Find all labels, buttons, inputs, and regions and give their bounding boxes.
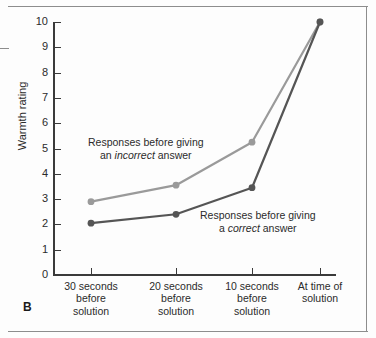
annotation-incorrect-line1: Responses before giving xyxy=(88,136,204,148)
series-0-point-2 xyxy=(249,139,256,146)
annotation-correct-line1: Responses before giving xyxy=(200,209,316,221)
annotation-incorrect-emphasis: incorrect xyxy=(115,149,155,161)
series-1-point-1 xyxy=(173,211,180,218)
annotation-correct-series: Responses before giving a correct answer xyxy=(200,209,316,235)
annotation-incorrect-series: Responses before giving an incorrect ans… xyxy=(88,136,204,162)
panel-label-b: B xyxy=(23,300,32,314)
annotation-incorrect-line2-pre: an xyxy=(100,149,115,161)
annotation-incorrect-line2-post: answer xyxy=(155,149,192,161)
series-1-point-2 xyxy=(249,184,256,191)
series-1-point-3 xyxy=(317,19,324,26)
annotation-correct-emphasis: correct xyxy=(228,222,260,234)
series-line-1 xyxy=(91,22,320,223)
series-0-point-1 xyxy=(173,182,180,189)
series-1-point-0 xyxy=(88,220,95,227)
chart-series-layer xyxy=(0,0,376,338)
figure-panel-b: 012345678910 30 secondsbeforesolution20 … xyxy=(0,0,376,338)
annotation-correct-line2-pre: a xyxy=(219,222,228,234)
annotation-correct-line2-post: answer xyxy=(260,222,297,234)
series-0-point-0 xyxy=(88,198,95,205)
series-line-0 xyxy=(91,22,320,202)
